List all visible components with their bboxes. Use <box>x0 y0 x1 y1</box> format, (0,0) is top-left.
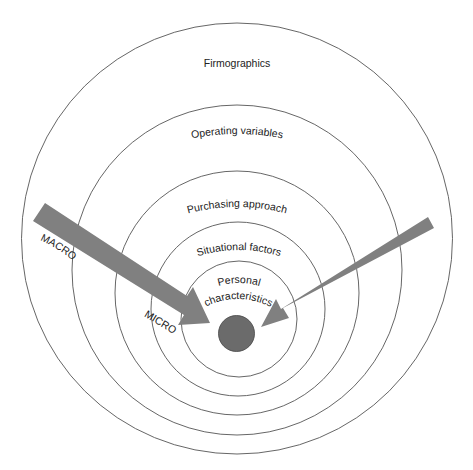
label-personal: Personal <box>216 273 262 288</box>
label-characteristics: characteristics <box>202 289 275 309</box>
label-micro: MICRO <box>143 307 179 335</box>
label-firmographics: Firmographics <box>204 57 271 69</box>
left-arrow-icon <box>33 203 210 325</box>
segmentation-diagram: Firmographics Operating variables Purcha… <box>0 0 473 470</box>
center-dot <box>219 316 255 352</box>
label-operating-variables: Operating variables <box>190 124 284 140</box>
label-purchasing-approach: Purchasing approach <box>186 197 289 216</box>
right-arrow-icon <box>261 217 434 327</box>
label-situational-factors: Situational factors <box>195 240 283 258</box>
